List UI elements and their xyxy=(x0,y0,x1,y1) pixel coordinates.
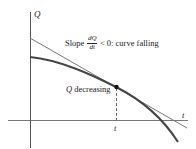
slope-prefix: Slope xyxy=(65,39,84,48)
fraction-denominator: dt xyxy=(89,44,94,52)
slope-annotation: Slope dQ dt < 0: curve falling xyxy=(65,35,159,51)
q-symbol: Q xyxy=(66,84,72,94)
diagram-canvas xyxy=(0,0,196,149)
tangent-point xyxy=(114,85,118,89)
x-axis-label: t xyxy=(182,111,184,120)
derivative-fraction: dQ dt xyxy=(87,35,97,51)
q-decreasing-annotation: Q decreasing xyxy=(66,85,111,94)
slope-suffix: < 0: curve falling xyxy=(100,39,159,48)
decreasing-text: decreasing xyxy=(74,84,110,94)
y-axis-label: Q xyxy=(34,10,41,19)
function-curve xyxy=(30,57,178,142)
t-tick-label: t xyxy=(114,124,116,133)
